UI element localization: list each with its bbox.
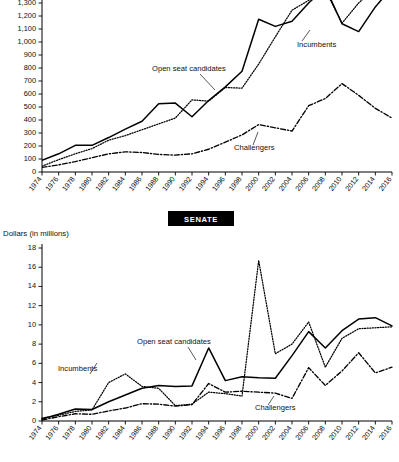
senate-plot-background [0,208,399,462]
senate-y-axis-title: Dollars (in millions) [3,229,69,238]
house-y-tick-label: 100 [24,154,36,163]
house-y-tick-label: 1,300 [18,0,37,7]
house-y-tick-label: 800 [24,63,36,72]
house-y-tick-label: 1,100 [18,24,37,33]
house-label-open-seat: Open seat candidates [152,64,226,73]
senate-y-tick-label: 12 [28,301,36,310]
senate-label-challengers: Challengers [255,403,296,412]
house-y-tick-label: 700 [24,76,36,85]
senate-y-tick-label: 2 [32,397,36,406]
senate-y-tick-label: 14 [28,281,36,290]
senate-y-tick-label: 6 [32,358,36,367]
senate-y-tick-label: 18 [28,243,36,252]
senate-chart: SENATEDollars (in millions)0246810121416… [0,208,399,462]
senate-y-tick-label: 16 [28,262,36,271]
senate-y-tick-label: 4 [32,378,36,387]
senate-y-tick-label: 8 [32,339,36,348]
house-y-tick-label: 1,000 [18,37,37,46]
house-chart: 01002003004005006007008009001,0001,1001,… [0,0,399,208]
house-label-challengers: Challengers [234,143,275,152]
senate-label-open-seat: Open seat candidates [137,337,211,346]
house-y-tick-label: 1,200 [18,11,37,20]
senate-y-tick-label: 10 [28,320,36,329]
senate-title-text: SENATE [184,215,218,224]
house-y-tick-label: 900 [24,50,36,59]
house-y-tick-label: 600 [24,89,36,98]
house-y-tick-label: 200 [24,141,36,150]
campaign-spending-figure: 01002003004005006007008009001,0001,1001,… [0,0,399,462]
house-y-tick-label: 300 [24,128,36,137]
house-label-incumbents: Incumbents [297,40,336,49]
house-y-tick-label: 500 [24,102,36,111]
house-y-tick-label: 400 [24,115,36,124]
